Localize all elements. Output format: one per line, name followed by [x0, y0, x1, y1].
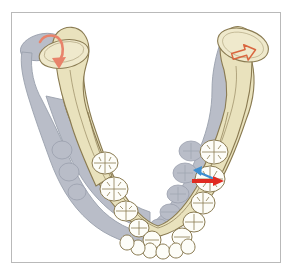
tooth-left-first-molar: [114, 201, 138, 221]
tooth-incisor-6: [120, 235, 134, 250]
mandible-illustration: [0, 0, 293, 278]
figure-root: Mandible rotation and translation diagra…: [0, 0, 293, 278]
tooth-left-second-molar: [100, 177, 128, 201]
illustration-canvas: [0, 0, 293, 278]
tooth-right-third-molar: [200, 140, 228, 164]
tooth-incisor-5: [181, 239, 195, 254]
tooth-left-third-molar: [92, 152, 118, 174]
tooth-incisor-2: [156, 244, 170, 259]
tooth-right-first-molar: [191, 192, 215, 214]
active-mandible-layer: [37, 22, 272, 236]
